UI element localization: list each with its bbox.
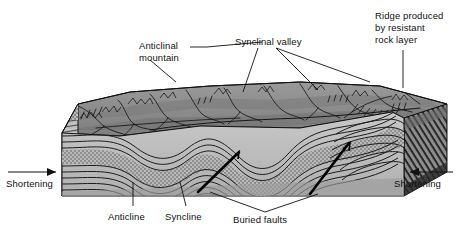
label-ridge-line2: by resistant (375, 22, 425, 33)
label-ridge-line1: Ridge produced (375, 10, 443, 21)
label-anticline: Anticline (108, 211, 145, 222)
leader-anticlinal-mountain (150, 60, 176, 82)
label-shortening-right: Shortening (394, 178, 441, 189)
label-syncline: Syncline (165, 211, 202, 222)
label-buried-faults: Buried faults (233, 214, 287, 225)
label-anticlinal-mountain-line2: mountain (139, 52, 179, 63)
leader-buried-fault-right (265, 194, 318, 212)
label-ridge-line3: rock layer (375, 34, 417, 45)
shortening-arrow-left (8, 168, 56, 176)
label-shortening-left: Shortening (6, 178, 53, 189)
label-synclinal-valley: Synclinal valley (235, 36, 302, 47)
leader-synclinal-far (276, 48, 370, 82)
block-diagram-figure: Anticlinal mountain Synclinal valley Rid… (0, 0, 461, 242)
label-anticlinal-mountain-line1: Anticlinal (139, 40, 178, 51)
